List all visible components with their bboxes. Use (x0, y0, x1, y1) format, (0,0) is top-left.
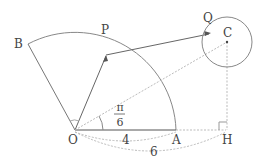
angle-arc (99, 116, 103, 130)
angle-denominator: 6 (114, 117, 126, 128)
angle-arc-small (70, 120, 79, 121)
label-B: B (14, 38, 23, 50)
center-C (226, 41, 228, 43)
vector-OP (75, 56, 106, 130)
label-P: P (101, 24, 109, 36)
sector-arc (28, 32, 176, 130)
length-OH: 6 (150, 146, 158, 158)
arrowhead-Q (204, 31, 211, 36)
vector-PQ (106, 34, 209, 55)
label-H: H (222, 134, 232, 146)
label-O: O (68, 134, 78, 146)
segment-OC (75, 42, 227, 130)
angle-numerator: π (114, 102, 126, 113)
geometry-diagram: B P Q C O A H π 6 4 6 (0, 0, 265, 165)
length-OA: 4 (122, 134, 130, 146)
segment-OB (28, 44, 75, 130)
label-Q: Q (203, 12, 213, 24)
right-angle-mark (219, 122, 227, 130)
label-A: A (172, 134, 181, 146)
label-C: C (223, 27, 232, 39)
